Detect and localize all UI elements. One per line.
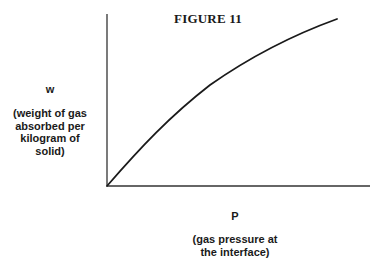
y-axis-description: (weight of gas absorbed per kilogram of …: [0, 107, 100, 157]
figure-title: FIGURE 11: [174, 11, 294, 27]
x-axis-symbol: P: [170, 210, 300, 222]
y-axis-symbol: w: [0, 83, 100, 95]
absorption-curve: [107, 19, 337, 186]
x-axis-description: (gas pressure at the interface): [170, 233, 300, 258]
